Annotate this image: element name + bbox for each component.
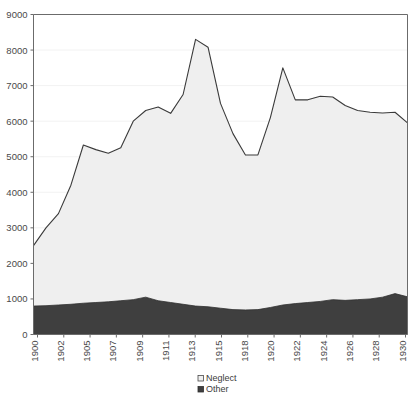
y-tick-label: 5000: [6, 151, 27, 162]
x-tick-label: 1911: [160, 341, 171, 361]
x-tick-label: 1909: [134, 341, 145, 362]
chart-legend: Neglect Other: [193, 372, 259, 397]
legend-swatch-neglect: [198, 376, 204, 382]
x-tick-label: 1928: [370, 341, 381, 362]
legend-label-neglect: Neglect: [206, 373, 237, 383]
x-tick-label: 1907: [107, 341, 118, 362]
y-tick-label: 7000: [6, 80, 27, 91]
x-tick-label: 1915: [213, 341, 224, 362]
x-tick-label: 1900: [29, 341, 40, 362]
y-tick-label: 4000: [6, 187, 27, 198]
chart-canvas: 0100020003000400050006000700080009000 19…: [0, 0, 420, 403]
x-tick-label: 1922: [291, 341, 302, 362]
x-tick-label: 1924: [318, 341, 329, 362]
y-tick-label: 3000: [6, 222, 27, 233]
x-tick-label: 1913: [186, 341, 197, 362]
stacked-area-chart: 0100020003000400050006000700080009000 19…: [0, 0, 420, 403]
y-tick-label: 8000: [6, 45, 27, 56]
y-tick-label: 0: [22, 329, 27, 340]
y-tick-label: 9000: [6, 9, 27, 20]
y-tick-label: 6000: [6, 116, 27, 127]
x-tick-label: 1902: [55, 341, 66, 362]
x-tick-label: 1905: [81, 341, 92, 362]
legend-label-other: Other: [206, 384, 229, 394]
y-tick-label: 2000: [6, 258, 27, 269]
x-tick-label: 1920: [265, 341, 276, 362]
x-tick-label: 1918: [239, 341, 250, 362]
x-tick-label: 1930: [397, 341, 408, 362]
y-tick-label: 1000: [6, 293, 27, 304]
legend-swatch-other: [198, 387, 204, 393]
x-tick-label: 1926: [344, 341, 355, 362]
